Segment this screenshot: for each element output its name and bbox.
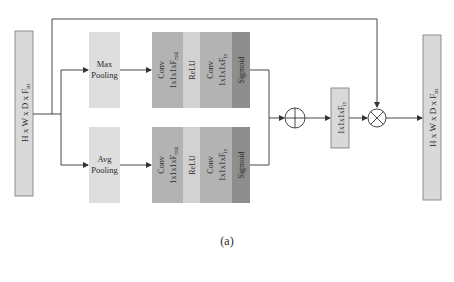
conv-in-box bbox=[200, 32, 232, 108]
output-sub: in bbox=[433, 89, 439, 94]
conv1-dims: 1x1x1xF bbox=[169, 155, 178, 184]
svg-text:1x1x1xFin: 1x1x1xFin bbox=[218, 148, 228, 181]
max-pooling-label-1: Max bbox=[97, 59, 113, 69]
input-feature-box: H x W x D x Fin bbox=[15, 31, 33, 196]
input-sub: in bbox=[25, 84, 31, 89]
attention-map-sub: in bbox=[341, 101, 347, 106]
conv2-label: Conv bbox=[206, 156, 215, 173]
channel-attention-diagram: H x W x D x Fin Max Pooling Conv 1x1x bbox=[0, 0, 454, 282]
elementwise-multiply-node bbox=[368, 109, 386, 127]
avg-pooling-branch: Avg Pooling Conv 1x1x1xFmid ReLU Conv 1x… bbox=[89, 127, 250, 203]
conv2-sub: in bbox=[222, 53, 228, 58]
conv2-sub: in bbox=[222, 148, 228, 153]
relu-label: ReLU bbox=[188, 60, 197, 80]
attention-map-label: 1x1x1xF bbox=[337, 105, 346, 134]
conv1-dims: 1x1x1xF bbox=[169, 60, 178, 89]
input-label: H x W x D x F bbox=[20, 89, 30, 142]
avg-pooling-label-2: Pooling bbox=[91, 165, 118, 175]
sigmoid-label: Sigmoid bbox=[237, 56, 246, 83]
conv-in-box bbox=[200, 127, 232, 203]
conv1-sub: mid bbox=[173, 146, 179, 155]
figure-caption: (a) bbox=[220, 234, 233, 248]
svg-text:1x1x1xFin: 1x1x1xFin bbox=[218, 53, 228, 86]
conv1-label: Conv bbox=[157, 61, 166, 78]
conv2-dims: 1x1x1xF bbox=[218, 57, 227, 86]
conv2-dims: 1x1x1xF bbox=[218, 152, 227, 181]
conv1-sub: mid bbox=[173, 51, 179, 60]
elementwise-sum-node bbox=[285, 108, 305, 128]
output-feature-box: H x W x D x Fin bbox=[423, 35, 441, 200]
svg-text:H x W x D x Fin: H x W x D x Fin bbox=[428, 89, 439, 147]
output-label: H x W x D x F bbox=[428, 94, 438, 147]
avg-pooling-label-1: Avg bbox=[97, 154, 112, 164]
max-pooling-label-2: Pooling bbox=[91, 70, 118, 80]
svg-text:1x1x1xFin: 1x1x1xFin bbox=[337, 101, 347, 134]
conv1-label: Conv bbox=[157, 156, 166, 173]
conv2-label: Conv bbox=[206, 61, 215, 78]
svg-text:H x W x D x Fin: H x W x D x Fin bbox=[20, 84, 31, 142]
sigmoid-label: Sigmoid bbox=[237, 151, 246, 178]
relu-label: ReLU bbox=[188, 155, 197, 175]
max-pooling-branch: Max Pooling Conv 1x1x1xFmid ReLU Conv 1x… bbox=[89, 32, 250, 108]
attention-map-box: 1x1x1xFin bbox=[331, 88, 349, 148]
